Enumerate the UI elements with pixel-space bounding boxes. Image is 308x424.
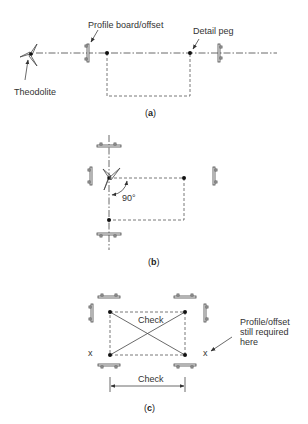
figure-c: Check x x Profile/offset still required … [88, 294, 290, 413]
profile-board-left-a [85, 44, 89, 62]
theodolite-pointer [25, 60, 28, 80]
dimension-check-label: Check [138, 374, 164, 384]
profile-board-top-b [97, 143, 121, 147]
profile-board-label: Profile board/offset [88, 20, 164, 30]
detail-peg-dot [188, 51, 192, 55]
corner-peg-a1 [105, 51, 109, 55]
corner-peg-c3 [108, 353, 112, 357]
profile-board-left-b [88, 167, 92, 185]
theodolite-label: Theodolite [14, 87, 56, 97]
note-line-2: still required [240, 327, 289, 337]
x-mark-left: x [88, 348, 93, 358]
profile-board-top-left-c [98, 294, 120, 298]
angle-label: 90° [122, 193, 136, 203]
theodolite-icon [20, 44, 37, 66]
corner-peg-b2 [107, 218, 111, 222]
corner-peg-c2 [183, 310, 187, 314]
building-outline-a [107, 53, 190, 96]
caption-a: (a) [145, 108, 156, 118]
note-line-1: Profile/offset [240, 317, 290, 327]
note-line-3: here [240, 337, 258, 347]
profile-board-top-right-c [174, 294, 196, 298]
detail-peg-pointer [193, 39, 199, 49]
profile-pointer [91, 30, 98, 42]
figure-a: Theodolite Profile board/offset Detail p… [14, 20, 277, 118]
corner-peg-b1 [182, 176, 186, 180]
profile-board-bottom-right-c [174, 364, 196, 368]
setting-out-diagram: Theodolite Profile board/offset Detail p… [0, 0, 308, 424]
figure-b: 90° (b) [88, 135, 217, 267]
profile-board-left-c [89, 304, 93, 322]
corner-peg-c4 [183, 353, 187, 357]
corner-peg-c1 [108, 310, 112, 314]
profile-board-right-c [204, 304, 208, 322]
diagonal-check-label: Check [138, 315, 164, 325]
building-outline-b [109, 178, 184, 220]
note-pointer [211, 337, 232, 351]
profile-board-right-b [213, 167, 217, 185]
caption-b: (b) [148, 257, 160, 267]
x-mark-right: x [203, 348, 208, 358]
detail-peg-label: Detail peg [193, 26, 234, 36]
profile-board-bottom-left-c [98, 364, 120, 368]
theodolite-icon-b [103, 168, 120, 190]
caption-c: (c) [144, 403, 155, 413]
